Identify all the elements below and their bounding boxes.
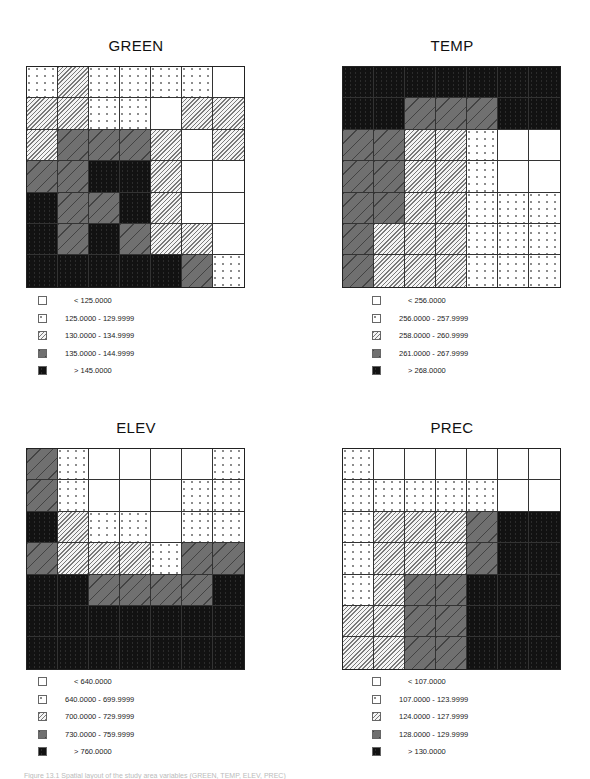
grid-cell <box>529 98 560 129</box>
grid-cell <box>89 130 120 161</box>
grid-cell <box>467 543 498 574</box>
grid-cell <box>89 98 120 129</box>
grid-cell <box>436 512 467 543</box>
grid-cell <box>213 512 244 543</box>
grid-cell <box>58 130 89 161</box>
grid-cell <box>343 224 374 255</box>
grid-cell <box>58 161 89 192</box>
legend-swatch-hatch <box>38 712 47 721</box>
grid-cell <box>436 575 467 606</box>
grid-cell <box>151 449 182 480</box>
grid-cell <box>374 193 405 224</box>
panel-title: ELEV <box>26 419 246 436</box>
grid-cell <box>436 637 467 668</box>
grid-cell <box>58 255 89 286</box>
grid-cell <box>374 130 405 161</box>
grid-cell <box>529 512 560 543</box>
legend-label: 107.0000 - 123.9999 <box>399 695 468 705</box>
grid-cell <box>151 193 182 224</box>
grid-cell <box>436 67 467 98</box>
grid-cell <box>529 480 560 511</box>
grid-cell <box>529 449 560 480</box>
grid-cell <box>27 255 58 286</box>
grid-cell <box>467 255 498 286</box>
grid-cell <box>405 480 436 511</box>
grid-cell <box>343 512 374 543</box>
panel-title: GREEN <box>26 37 246 54</box>
grid-cell <box>27 512 58 543</box>
grid-cell <box>374 449 405 480</box>
grid-cell <box>343 161 374 192</box>
grid-cell <box>151 161 182 192</box>
grid-cell <box>58 480 89 511</box>
grid-cell <box>467 637 498 668</box>
grid-cell <box>182 224 213 255</box>
grid-cell <box>405 637 436 668</box>
grid-cell <box>405 575 436 606</box>
grid-cell <box>405 449 436 480</box>
grid-cell <box>182 512 213 543</box>
grid-cell <box>498 606 529 637</box>
grid-cell <box>467 512 498 543</box>
grid-cell <box>343 255 374 286</box>
legend-swatch-hatch <box>372 331 381 340</box>
grid-cell <box>120 512 151 543</box>
grid-cell <box>529 67 560 98</box>
grid-cell <box>27 543 58 574</box>
grid-cell <box>89 224 120 255</box>
figure-caption: Figure 13.1 Spatial layout of the study … <box>24 772 286 779</box>
choropleth-grid <box>26 66 245 288</box>
grid-cell <box>120 543 151 574</box>
grid-cell <box>58 193 89 224</box>
legend-swatch-hatch <box>38 331 47 340</box>
grid-cell <box>89 480 120 511</box>
legend-swatch-white <box>372 296 381 305</box>
legend-swatch-dots <box>372 695 381 704</box>
legend-swatch-hatch <box>372 712 381 721</box>
grid-cell <box>467 449 498 480</box>
grid-cell <box>120 67 151 98</box>
legend-label: 125.0000 - 129.9999 <box>65 314 134 324</box>
grid-cell <box>343 543 374 574</box>
grid-cell <box>182 193 213 224</box>
legend-swatch-dark-gray <box>372 349 381 358</box>
grid-cell <box>151 224 182 255</box>
grid-cell <box>498 480 529 511</box>
grid-cell <box>405 161 436 192</box>
grid-cell <box>213 543 244 574</box>
grid-cell <box>213 480 244 511</box>
grid-cell <box>529 637 560 668</box>
legend-label: > 268.0000 <box>408 366 446 376</box>
grid-cell <box>374 512 405 543</box>
grid-cell <box>436 98 467 129</box>
grid-cell <box>89 606 120 637</box>
grid-cell <box>182 449 213 480</box>
legend-label: < 107.0000 <box>408 677 446 687</box>
grid-cell <box>151 606 182 637</box>
grid-cell <box>151 512 182 543</box>
grid-cell <box>182 637 213 668</box>
grid-cell <box>151 130 182 161</box>
grid-cell <box>467 606 498 637</box>
grid-cell <box>151 480 182 511</box>
grid-cell <box>182 130 213 161</box>
legend-label: 640.0000 - 699.9999 <box>65 695 134 705</box>
grid-cell <box>151 575 182 606</box>
grid-cell <box>529 606 560 637</box>
grid-cell <box>120 480 151 511</box>
grid-cell <box>529 193 560 224</box>
legend-swatch-dark-gray <box>38 730 47 739</box>
panel-title: TEMP <box>342 37 562 54</box>
grid-cell <box>436 543 467 574</box>
grid-cell <box>374 98 405 129</box>
grid-cell <box>120 637 151 668</box>
grid-cell <box>120 193 151 224</box>
legend-swatch-dots <box>372 314 381 323</box>
grid-cell <box>182 161 213 192</box>
grid-cell <box>343 193 374 224</box>
grid-cell <box>498 575 529 606</box>
grid-cell <box>182 543 213 574</box>
grid-cell <box>529 130 560 161</box>
grid-cell <box>151 98 182 129</box>
grid-cell <box>120 575 151 606</box>
